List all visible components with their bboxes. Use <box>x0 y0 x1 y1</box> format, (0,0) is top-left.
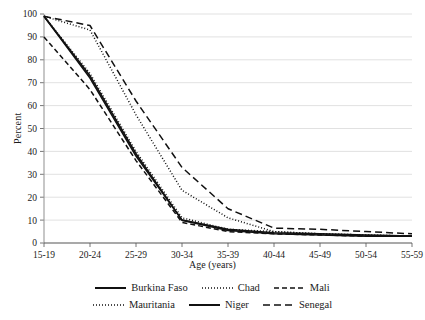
gridlines <box>44 14 412 220</box>
svg-text:30: 30 <box>28 170 38 180</box>
legend-label: Senegal <box>299 299 332 310</box>
legend-label: Mali <box>310 282 330 293</box>
svg-text:20: 20 <box>28 193 38 203</box>
svg-text:70: 70 <box>28 78 38 88</box>
legend-swatch-dotted <box>93 301 124 309</box>
series-line-mali <box>44 37 412 236</box>
legend-swatch-longdash <box>263 301 294 309</box>
legend-swatch-solid <box>189 301 220 309</box>
y-axis-ticks: 0102030405060708090100 <box>23 9 44 248</box>
legend-row-1: Burkina FasoChadMali <box>0 279 425 296</box>
legend-swatch-solid <box>95 284 126 292</box>
series-line-niger <box>44 16 412 236</box>
svg-text:80: 80 <box>28 55 38 65</box>
legend-swatch-dashed <box>274 284 305 292</box>
legend-item-chad[interactable]: Chad <box>202 282 260 293</box>
plot-area: 0102030405060708090100 15-1920-2425-2930… <box>0 0 425 320</box>
legend-label: Mauritania <box>129 299 175 310</box>
legend-label: Burkina Faso <box>131 282 187 293</box>
svg-text:50: 50 <box>28 124 38 134</box>
legend-row-2: MauritaniaNigerSenegal <box>0 296 425 313</box>
series-line-burkina-faso <box>44 16 412 236</box>
svg-text:100: 100 <box>23 9 38 19</box>
series-lines <box>44 16 412 236</box>
chart-legend: Burkina FasoChadMali MauritaniaNigerSene… <box>0 279 425 313</box>
legend-item-niger[interactable]: Niger <box>189 299 249 310</box>
svg-text:40: 40 <box>28 147 38 157</box>
series-line-senegal <box>44 16 412 234</box>
legend-swatch-dotted <box>202 284 233 292</box>
legend-label: Chad <box>238 282 260 293</box>
legend-item-senegal[interactable]: Senegal <box>263 299 332 310</box>
legend-item-mali[interactable]: Mali <box>274 282 330 293</box>
x-axis-label: Age (years) <box>0 259 425 270</box>
legend-item-burkina-faso[interactable]: Burkina Faso <box>95 282 187 293</box>
line-chart: Percent 0102030405060708090100 15-1920-2… <box>0 0 425 320</box>
legend-item-mauritania[interactable]: Mauritania <box>93 299 175 310</box>
series-line-mauritania <box>44 16 412 236</box>
x-axis-ticks: 15-1920-2425-2930-3435-3940-4445-4950-54… <box>33 243 423 260</box>
svg-text:90: 90 <box>28 32 38 42</box>
svg-text:60: 60 <box>28 101 38 111</box>
legend-label: Niger <box>225 299 249 310</box>
svg-text:0: 0 <box>32 238 37 248</box>
series-line-chad <box>44 16 412 236</box>
svg-text:10: 10 <box>28 216 38 226</box>
